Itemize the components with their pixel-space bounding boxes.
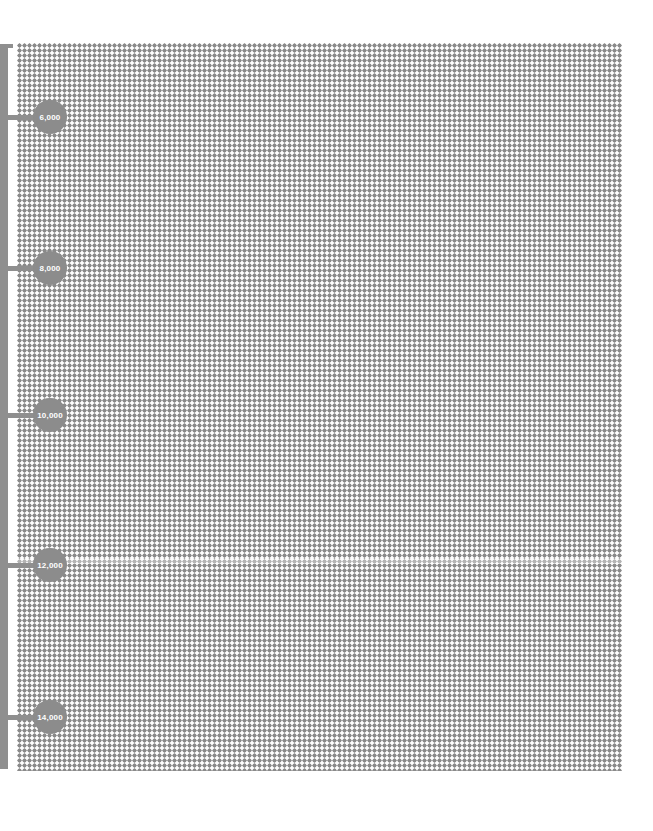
- tick-badge-12000: 12,000: [33, 548, 67, 582]
- tick-badge-14000: 14,000: [33, 700, 67, 734]
- scale-axis-cap: [0, 44, 13, 48]
- tick-badge-6000: 6,000: [33, 100, 67, 134]
- tick-badge-8000: 8,000: [33, 251, 67, 285]
- scale-axis-bar: [0, 44, 8, 769]
- highlight-row: [17, 559, 622, 564]
- dot-pictograph-chart: 6,000 8,000 10,000 12,000 14,000: [0, 0, 653, 831]
- tick-badge-10000: 10,000: [33, 398, 67, 432]
- dot-grid: [17, 43, 622, 771]
